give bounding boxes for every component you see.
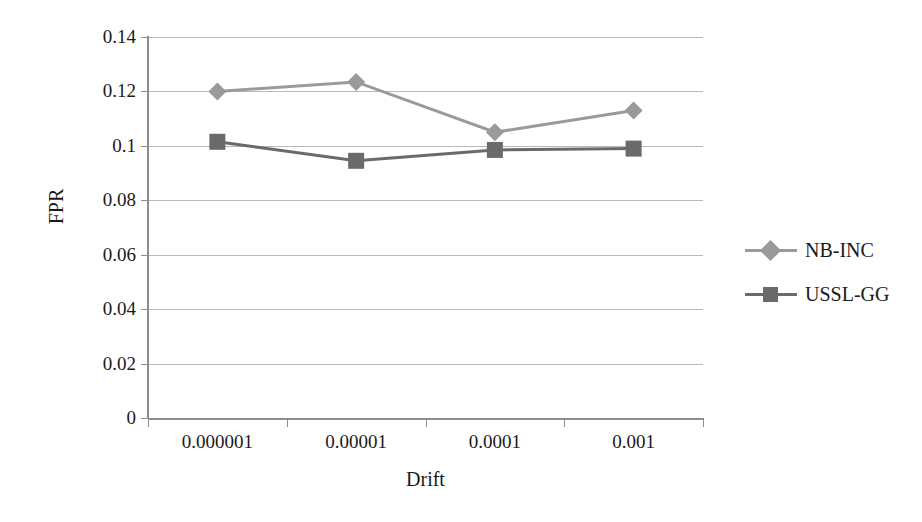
chart-legend: NB-INC USSL-GG bbox=[745, 228, 920, 316]
legend-swatch-nb-inc bbox=[745, 240, 797, 260]
y-axis-tick bbox=[141, 91, 148, 92]
legend-label-nb-inc: NB-INC bbox=[805, 240, 874, 260]
legend-item-ussl-gg: USSL-GG bbox=[745, 272, 920, 316]
y-axis-title: FPR bbox=[45, 147, 68, 267]
diamond-marker-icon bbox=[760, 240, 781, 261]
x-axis-tick bbox=[703, 419, 704, 427]
x-axis-tick-label: 0.00001 bbox=[287, 432, 426, 452]
gridline bbox=[148, 309, 703, 310]
x-axis-tick-label: 0.000001 bbox=[148, 432, 287, 452]
gridline bbox=[148, 364, 703, 365]
y-axis-tick bbox=[141, 146, 148, 147]
y-axis-tick-label: 0.14 bbox=[103, 27, 136, 46]
y-axis-tick-label: 0 bbox=[127, 408, 137, 427]
gridline bbox=[148, 146, 703, 147]
y-axis-tick-label: 0.08 bbox=[103, 190, 136, 209]
y-axis-tick bbox=[141, 309, 148, 310]
y-axis-tick bbox=[141, 37, 148, 38]
x-axis-tick bbox=[148, 419, 149, 427]
legend-item-nb-inc: NB-INC bbox=[745, 228, 920, 272]
x-axis-tick-label: 0.0001 bbox=[426, 432, 565, 452]
x-axis-tick bbox=[287, 419, 288, 427]
gridline bbox=[148, 91, 703, 92]
legend-label-ussl-gg: USSL-GG bbox=[805, 284, 889, 304]
gridline bbox=[148, 37, 703, 38]
x-axis-tick bbox=[426, 419, 427, 427]
x-axis-title: Drift bbox=[148, 468, 703, 491]
y-axis-tick-label: 0.12 bbox=[103, 81, 136, 100]
x-axis-tick-label: 0.001 bbox=[564, 432, 703, 452]
y-axis-tick bbox=[141, 418, 148, 419]
y-axis-tick-label: 0.06 bbox=[103, 245, 136, 264]
y-axis-tick bbox=[141, 200, 148, 201]
plot-area bbox=[148, 37, 703, 418]
y-axis-tick bbox=[141, 255, 148, 256]
y-axis-tick-label: 0.1 bbox=[112, 136, 136, 155]
gridline bbox=[148, 255, 703, 256]
gridline bbox=[148, 200, 703, 201]
chart-figure: 0.140.120.10.080.060.040.020 0.0000010.0… bbox=[0, 0, 922, 522]
legend-swatch-ussl-gg bbox=[745, 284, 797, 304]
y-axis-tick bbox=[141, 364, 148, 365]
square-marker-icon bbox=[763, 287, 778, 302]
x-axis-tick bbox=[564, 419, 565, 427]
y-axis-tick-label: 0.02 bbox=[103, 354, 136, 373]
y-axis-tick-label: 0.04 bbox=[103, 299, 136, 318]
y-axis-line bbox=[147, 36, 149, 419]
